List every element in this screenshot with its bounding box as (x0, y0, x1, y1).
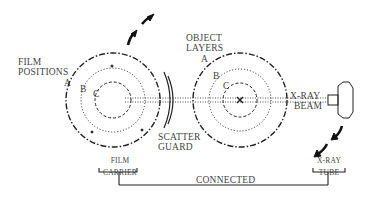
scatter-guard-label-line1: SCATTER (158, 132, 201, 142)
object-layer-a-label: A (201, 54, 208, 64)
film-positions-label-line1: FILM (18, 57, 68, 67)
film-carrier-label-line2: CARRIER (102, 168, 138, 178)
object-layers-label-line1: OBJECT (186, 33, 223, 43)
object-layers-label-line2: LAYERS (186, 43, 223, 53)
object-layer-b-label: B (213, 71, 220, 81)
object-layers-label: OBJECT LAYERS (186, 33, 223, 53)
scatter-guard-label-line2: GUARD (158, 142, 201, 152)
xray-beam-label: X-RAY BEAM (290, 91, 322, 111)
scatter-guard-label: SCATTER GUARD (158, 132, 201, 152)
film-carrier-label: FILM CARRIER (102, 156, 138, 178)
tube-motion-arrows (314, 126, 342, 157)
xray-beam-label-line2: BEAM (290, 101, 322, 111)
film-motion-arrows (128, 14, 154, 45)
xray-beam-label-line1: X-RAY (290, 91, 322, 101)
connected-label: CONNECTED (196, 175, 255, 185)
film-layer-b-label: B (80, 84, 87, 94)
xray-tube-label: X-RAY TUBE (311, 156, 347, 178)
film-positions-label-line2: POSITIONS (18, 67, 68, 77)
scatter-guard-arcs (164, 72, 173, 128)
film-layer-c-label: C (93, 89, 100, 99)
object-layer-c-label: C (223, 81, 230, 91)
xray-tube (328, 82, 353, 118)
film-positions-circles (66, 53, 160, 147)
film-layer-a-label: A (64, 78, 71, 88)
xray-tube-label-line2: TUBE (311, 168, 347, 178)
film-positions-label: FILM POSITIONS (18, 57, 68, 77)
xray-tube-label-line1: X-RAY (311, 156, 347, 166)
film-carrier-label-line1: FILM (102, 156, 138, 166)
